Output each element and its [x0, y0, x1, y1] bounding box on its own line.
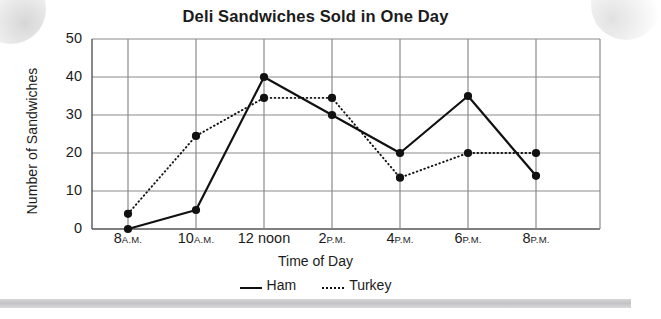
data-point-turkey-3: [328, 94, 336, 102]
legend-label-ham: Ham: [267, 278, 297, 292]
x-tick-suffix: A.M.: [194, 234, 214, 245]
x-tick-number: 8: [114, 230, 122, 246]
x-tick-suffix: P.M.: [462, 234, 481, 245]
x-tick-suffix: P.M.: [394, 234, 413, 245]
legend-solid-line-icon: [240, 287, 262, 289]
x-tick-suffix: A.M.: [122, 234, 142, 245]
x-tick-number: 10: [178, 230, 194, 246]
legend-item-turkey: Turkey: [322, 278, 391, 292]
page-bottom-band: [0, 299, 631, 308]
data-point-ham-1: [192, 206, 200, 214]
data-point-turkey-5: [464, 149, 472, 157]
data-point-turkey-6: [532, 149, 540, 157]
grid-lines: [92, 39, 600, 229]
data-point-turkey-0: [124, 210, 132, 218]
x-axis-title: Time of Day: [0, 253, 631, 269]
data-point-turkey-2: [260, 94, 268, 102]
data-point-ham-5: [464, 92, 472, 100]
data-point-ham-3: [328, 111, 336, 119]
legend-label-turkey: Turkey: [349, 278, 391, 292]
page-bottom-margin: [0, 308, 631, 319]
data-point-turkey-1: [192, 132, 200, 140]
x-tick-suffix: P.M.: [326, 234, 345, 245]
x-tick-label-6: 8P.M.: [490, 230, 582, 246]
legend-dotted-line-icon: [322, 287, 344, 289]
data-point-turkey-4: [396, 174, 404, 182]
data-point-ham-4: [396, 149, 404, 157]
x-tick-suffix: P.M.: [530, 234, 549, 245]
chart-legend: Ham Turkey: [0, 278, 631, 292]
data-point-ham-2: [260, 73, 268, 81]
x-tick-number: 12: [238, 230, 254, 246]
legend-item-ham: Ham: [240, 278, 297, 292]
data-point-ham-6: [532, 172, 540, 180]
